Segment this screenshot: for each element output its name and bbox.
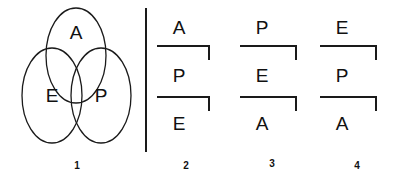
venn-label-right: P: [89, 86, 113, 105]
sequence-letter: P: [327, 66, 357, 85]
bracket-vertical-stub: [375, 45, 377, 60]
bracket-horizontal-line: [320, 96, 377, 98]
bracket-vertical-stub: [375, 96, 377, 111]
bracket-connector: [320, 96, 377, 111]
panel-caption-1: 1: [67, 161, 87, 171]
venn-label-left: E: [40, 86, 64, 105]
panel-caption-2: 2: [176, 161, 196, 171]
venn-label-top: A: [64, 23, 88, 42]
sequence-letter: A: [247, 114, 277, 133]
sequence-letter: P: [247, 18, 277, 37]
bracket-connector: [240, 96, 297, 111]
bracket-connector: [157, 45, 210, 60]
bracket-horizontal-line: [157, 45, 210, 47]
sequence-letter: A: [327, 114, 357, 133]
venn-diagram-panel: A E P: [0, 0, 145, 185]
bracket-connector: [240, 45, 297, 60]
bracket-connector: [320, 45, 377, 60]
sequence-letter: A: [164, 18, 194, 37]
bracket-horizontal-line: [320, 45, 377, 47]
bracket-vertical-stub: [208, 45, 210, 60]
bracket-horizontal-line: [240, 96, 297, 98]
sequence-letter: E: [327, 18, 357, 37]
bracket-horizontal-line: [240, 45, 297, 47]
sequence-panel-4: E P A: [320, 0, 378, 185]
bracket-vertical-stub: [295, 96, 297, 111]
sequence-panel-2: A P E: [157, 0, 211, 185]
vertical-divider: [145, 8, 147, 152]
sequence-letter: E: [164, 114, 194, 133]
figure-canvas: A E P A P E P E A E: [0, 0, 408, 185]
panel-caption-4: 4: [347, 161, 367, 171]
sequence-letter: E: [247, 66, 277, 85]
panel-caption-3: 3: [262, 159, 282, 169]
sequence-letter: P: [164, 66, 194, 85]
bracket-vertical-stub: [208, 96, 210, 111]
bracket-horizontal-line: [157, 96, 210, 98]
bracket-connector: [157, 96, 210, 111]
bracket-vertical-stub: [295, 45, 297, 60]
